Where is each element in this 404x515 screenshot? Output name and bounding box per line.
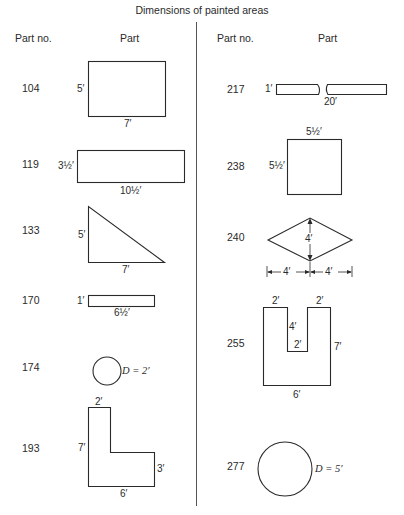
dim-238-left: 5½′ (269, 160, 285, 171)
dim-277-diameter: D = 5′ (315, 463, 342, 474)
shape-238-square (288, 140, 342, 195)
dim-104-height: 5′ (77, 83, 84, 94)
dim-193-bottom: 6′ (120, 488, 127, 499)
part-no-277: 277 (227, 460, 245, 472)
dim-193-top: 2′ (95, 396, 102, 407)
part-no-193: 193 (22, 442, 40, 454)
part-no-104: 104 (22, 82, 40, 94)
dim-193-left: 7′ (78, 442, 85, 453)
shape-174-circle (93, 357, 121, 385)
dim-133-base: 7′ (122, 264, 129, 275)
dim-238-top: 5½′ (306, 126, 322, 137)
part-no-174: 174 (22, 361, 40, 373)
dim-170-height: 1′ (77, 295, 84, 306)
dim-255-top-left: 2′ (272, 295, 279, 306)
dim-119-height: 3½′ (58, 160, 74, 171)
shape-119-rectangle (78, 151, 185, 183)
shape-217-strip-right (326, 85, 386, 95)
shape-170-rectangle (89, 296, 155, 307)
shape-240-horizontal-dimension (267, 262, 352, 277)
part-no-133: 133 (22, 224, 40, 236)
dim-174-diameter: D = 2′ (122, 365, 149, 376)
dim-217-length: 20′ (324, 96, 337, 107)
shape-193-l-shape (89, 408, 155, 487)
dim-255-notch-width: 2′ (294, 339, 301, 350)
dim-119-width: 10½′ (120, 185, 141, 196)
shape-217-strip-left (277, 85, 320, 95)
part-no-217: 217 (227, 83, 245, 95)
dim-133-height: 5′ (78, 229, 85, 240)
dim-217-height: 1′ (265, 83, 272, 94)
dim-104-width: 7′ (124, 118, 131, 129)
dim-255-top-right: 2′ (316, 295, 323, 306)
part-no-119: 119 (22, 158, 39, 170)
dim-240-vertical: 4′ (305, 233, 312, 244)
shape-104-rectangle (89, 62, 166, 117)
part-no-170: 170 (22, 294, 40, 306)
shape-133-triangle (89, 207, 165, 263)
part-no-238: 238 (227, 160, 245, 172)
dim-193-right: 3′ (157, 463, 164, 474)
dim-240-right-half: 4′ (325, 266, 332, 277)
shapes-canvas (0, 0, 404, 515)
shape-277-circle (258, 442, 312, 496)
dim-170-width: 6½′ (114, 307, 130, 318)
dim-255-notch-depth: 4′ (289, 321, 296, 332)
dim-240-left-half: 4′ (283, 266, 290, 277)
part-no-240: 240 (227, 231, 245, 243)
part-no-255: 255 (227, 337, 245, 349)
dim-255-bottom: 6′ (293, 389, 300, 400)
dim-255-right: 7′ (334, 341, 341, 352)
